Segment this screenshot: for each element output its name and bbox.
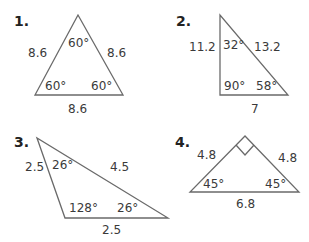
angle-bottom-left-label: 60° [45, 79, 66, 93]
angle-bottom-right-label: 60° [91, 79, 112, 93]
angle-top-label: 60° [68, 36, 89, 50]
side-right-label: 8.6 [107, 46, 126, 60]
triangle-worksheet: 1. 8.6 8.6 8.6 60° 60° 60° 2. 11.2 13.2 … [0, 0, 309, 242]
side-bottom-label: 6.8 [236, 197, 255, 211]
triangle-shape [37, 138, 168, 218]
side-left-label: 4.8 [197, 148, 216, 162]
angle-bottom-left-label: 128° [69, 201, 98, 215]
right-angle-mark-icon [236, 145, 254, 155]
problem-1: 1. 8.6 8.6 8.6 60° 60° 60° [14, 13, 126, 116]
problem-number: 4. [175, 134, 190, 150]
angle-bottom-left-label: 45° [203, 177, 224, 191]
angle-top-label: 32° [223, 38, 244, 52]
side-left-label: 8.6 [28, 46, 47, 60]
angle-top-label: 26° [52, 158, 73, 172]
problem-number: 1. [14, 13, 29, 29]
side-bottom-label: 2.5 [102, 223, 121, 237]
problem-number: 3. [14, 134, 29, 150]
problem-number: 2. [176, 13, 191, 29]
side-hypotenuse-label: 13.2 [254, 40, 281, 54]
problem-4: 4. 4.8 4.8 6.8 45° 45° [175, 134, 299, 211]
side-bottom-label: 8.6 [68, 102, 87, 116]
side-bottom-label: 7 [251, 102, 259, 116]
angle-bottom-right-label: 26° [117, 201, 138, 215]
angle-bottom-right-label: 58° [256, 79, 277, 93]
side-left-label: 2.5 [25, 160, 44, 174]
angle-bottom-right-label: 45° [265, 177, 286, 191]
angle-bottom-left-label: 90° [224, 79, 245, 93]
side-top-label: 4.5 [110, 160, 129, 174]
problem-2: 2. 11.2 13.2 7 32° 90° 58° [176, 13, 288, 116]
side-left-label: 11.2 [189, 40, 216, 54]
side-right-label: 4.8 [278, 151, 297, 165]
problem-3: 3. 2.5 4.5 2.5 26° 128° 26° [14, 134, 168, 237]
